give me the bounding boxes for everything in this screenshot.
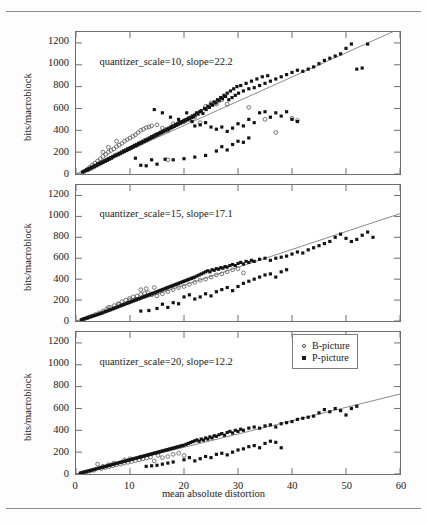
legend-label-b-picture: B-picture — [312, 340, 350, 351]
plot-area-panel-2 — [76, 185, 400, 321]
x-axis-title: mean absolute distortion — [0, 488, 427, 499]
y-tick-label: 200 — [53, 295, 69, 305]
y-tick-label: 1000 — [48, 358, 69, 368]
y-tick-label: 600 — [53, 403, 69, 413]
y-tick-label: 0 — [64, 169, 69, 179]
open-circle-icon — [298, 344, 309, 348]
legend-box: B-picture P-picture — [292, 334, 358, 369]
scatter-figure: bits/macroblock bits/macroblock bits/mac… — [0, 0, 427, 525]
panel-annotation-quantizer-15: quantizer_scale=15, slope=17.1 — [99, 208, 232, 219]
y-tick-label: 600 — [53, 103, 69, 113]
y-tick-label: 400 — [53, 274, 69, 284]
panel-annotation-quantizer-20: quantizer_scale=20, slope=12.2 — [99, 356, 232, 367]
y-axis-title-panel-3: bits/macroblock — [22, 373, 33, 441]
y-tick-label: 800 — [53, 231, 69, 241]
y-tick-label: 0 — [64, 316, 69, 326]
y-tick-label: 200 — [53, 447, 69, 457]
y-tick-label: 1200 — [48, 336, 69, 346]
legend-item-b-picture: B-picture — [298, 340, 350, 351]
y-axis-title-panel-1: bits/macroblock — [22, 73, 33, 141]
y-tick-label: 0 — [64, 469, 69, 479]
y-axis-title-panel-2: bits/macroblock — [22, 223, 33, 291]
y-tick-label: 1000 — [48, 210, 69, 220]
figure-page: bits/macroblock bits/macroblock bits/mac… — [0, 0, 427, 525]
y-tick-label: 800 — [53, 380, 69, 390]
y-tick-label: 800 — [53, 80, 69, 90]
plot-area-panel-1 — [76, 32, 400, 174]
y-tick-label: 1200 — [48, 189, 69, 199]
legend-item-p-picture: P-picture — [298, 352, 350, 363]
y-tick-label: 1000 — [48, 58, 69, 68]
panel-annotation-quantizer-10: quantizer_scale=10, slope=22.2 — [99, 56, 232, 67]
plot-panel-quantizer-15 — [75, 184, 401, 322]
legend-label-p-picture: P-picture — [312, 352, 349, 363]
y-tick-label: 400 — [53, 425, 69, 435]
y-tick-label: 200 — [53, 147, 69, 157]
plot-panel-quantizer-10 — [75, 31, 401, 175]
filled-square-icon — [298, 356, 309, 360]
y-tick-label: 600 — [53, 252, 69, 262]
y-tick-label: 1200 — [48, 36, 69, 46]
y-tick-label: 400 — [53, 125, 69, 135]
